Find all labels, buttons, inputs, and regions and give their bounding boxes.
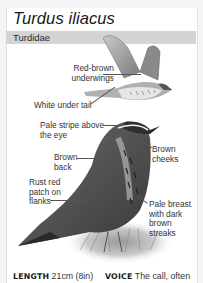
length-info: LENGTH 21cm (8in) <box>13 271 93 281</box>
label-white-under-tail: White under tail <box>34 101 92 111</box>
label-pale-breast: Pale breast with dark brown streaks <box>149 200 191 238</box>
leader-line <box>103 125 119 126</box>
length-label: LENGTH <box>13 272 49 281</box>
label-brown-back: Brown back <box>54 153 78 172</box>
leader-line <box>103 74 141 75</box>
label-line: underwings <box>58 74 114 84</box>
voice-value: The call, often <box>135 271 190 281</box>
voice-label: VOICE <box>105 272 132 281</box>
label-pale-stripe: Pale stripe above the eye <box>40 121 104 140</box>
label-line: back <box>54 163 78 173</box>
label-line: the eye <box>40 131 104 141</box>
length-value: 21cm (8in) <box>52 271 94 281</box>
label-line: streaks <box>149 229 191 239</box>
label-brown-cheeks: Brown cheeks <box>152 145 178 164</box>
leader-line <box>50 200 90 201</box>
label-rust-red-flanks: Rust red patch on flanks <box>29 178 61 207</box>
voice-info: VOICE The call, often <box>105 271 190 281</box>
label-line: cheeks <box>152 155 178 165</box>
bird-illustrations <box>0 0 203 283</box>
leader-line <box>77 158 101 159</box>
label-line: flanks <box>29 197 61 207</box>
